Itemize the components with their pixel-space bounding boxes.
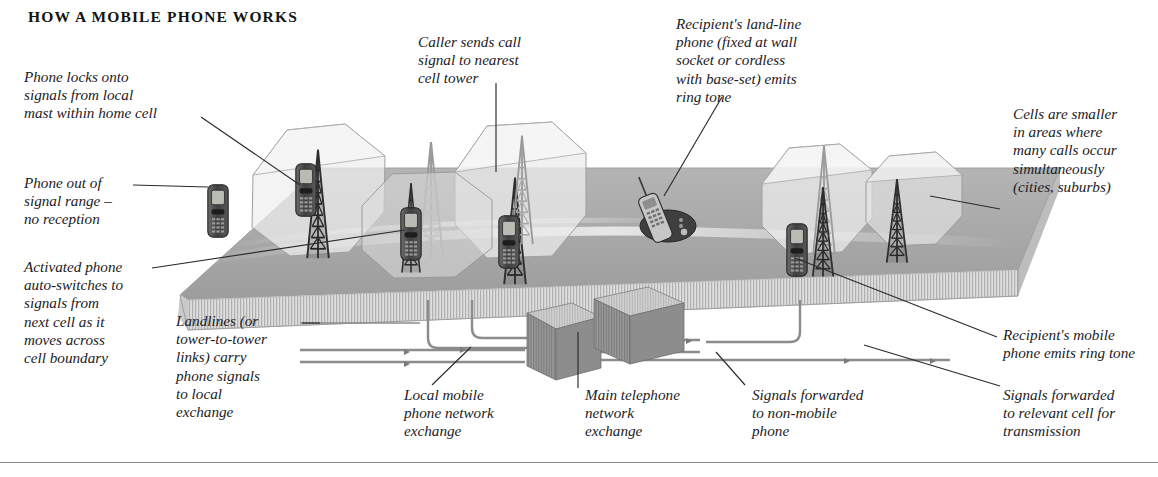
diagram-canvas: HOW A MOBILE PHONE WORKS Phone locks ont… [0,0,1158,477]
mobile-phone-caller [296,164,316,216]
label-signals-forwarded-relevant-cell: Signals forwarded to relevant cell for t… [1003,386,1158,441]
cell-3 [362,172,492,278]
label-phone-out-of-signal-range: Phone out of signal range – no reception [24,174,154,229]
label-recipient-landline-phone: Recipient's land-line phone (fixed at wa… [676,15,862,106]
label-signals-forwarded-non-mobile: Signals forwarded to non-mobile phone [752,386,908,441]
local-mobile-exchange-box [527,303,601,380]
mobile-phone-recipient [787,224,807,276]
label-cells-are-smaller: Cells are smaller in areas where many ca… [1013,105,1158,196]
page-title: HOW A MOBILE PHONE WORKS [28,8,298,26]
label-caller-sends-call-signal: Caller sends call signal to nearest cell… [418,33,578,88]
mobile-phone-sender [499,216,519,268]
label-phone-locks-onto-signals: Phone locks onto signals from local mast… [24,68,210,123]
label-local-mobile-phone-network-exchange: Local mobile phone network exchange [404,386,544,441]
main-telephone-exchange-box [594,287,684,364]
mobile-phone-out-of-range [208,185,228,237]
label-main-telephone-network-exchange: Main telephone network exchange [585,386,721,441]
label-recipient-mobile-emits-ring-tone: Recipient's mobile phone emits ring tone [1003,326,1158,362]
bottom-divider [0,462,1158,463]
label-landlines-carry-phone-signals: Landlines (or tower-to-tower links) carr… [176,312,308,421]
label-activated-phone-auto-switches: Activated phone auto-switches to signals… [24,258,174,367]
mobile-phone-switching [401,208,421,260]
